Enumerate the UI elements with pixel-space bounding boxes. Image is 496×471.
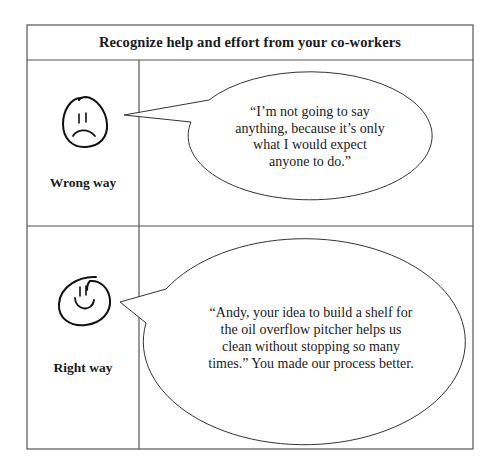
row-label-right-way: Right way	[27, 360, 139, 376]
table-title: Recognize help and effort from your co-w…	[27, 25, 473, 60]
quote-line: the oil overflow pitcher helps us	[191, 321, 431, 338]
quote-line: clean without stopping so many	[191, 338, 431, 355]
quote-line: “Andy, your idea to build a shelf for	[191, 304, 431, 321]
quote-line: what I would expect	[200, 137, 420, 154]
quote-line: anyone to do.”	[200, 154, 420, 171]
diagram-graphics	[0, 0, 496, 471]
quote-line: anything, because it’s only	[200, 121, 420, 138]
quote-wrong-way: “I’m not going to say anything, because …	[200, 104, 420, 170]
sad-face-icon	[63, 97, 107, 147]
row-label-wrong-way: Wrong way	[27, 175, 139, 191]
quote-line: times.” You made our process better.	[191, 355, 431, 372]
recognition-diagram: Recognize help and effort from your co-w…	[0, 0, 496, 471]
quote-right-way: “Andy, your idea to build a shelf for th…	[191, 304, 431, 372]
happy-face-icon	[59, 277, 110, 325]
quote-line: “I’m not going to say	[200, 104, 420, 121]
